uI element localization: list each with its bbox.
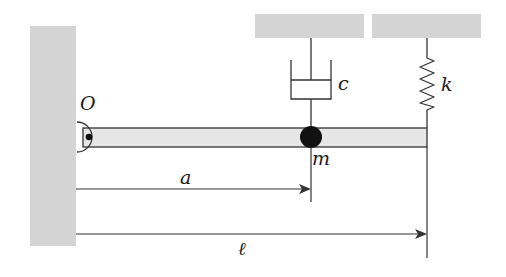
ceiling-block-damper	[255, 14, 364, 38]
label-damper-c: c	[338, 72, 349, 94]
mass	[300, 126, 322, 148]
label-pivot-O: O	[80, 92, 96, 114]
label-dimension-l: ℓ	[238, 238, 246, 259]
diagram-canvas: O c k m a ℓ	[0, 0, 506, 277]
pivot-pin	[86, 134, 93, 141]
dimension-l	[76, 229, 427, 239]
dimension-a	[76, 184, 311, 194]
spring	[420, 38, 434, 128]
left-wall	[30, 26, 76, 246]
damper	[291, 38, 331, 128]
ceiling-block-spring	[372, 14, 481, 38]
label-spring-k: k	[441, 73, 453, 95]
beam	[83, 128, 427, 147]
label-mass-m: m	[312, 147, 330, 169]
label-dimension-a: a	[180, 166, 191, 188]
